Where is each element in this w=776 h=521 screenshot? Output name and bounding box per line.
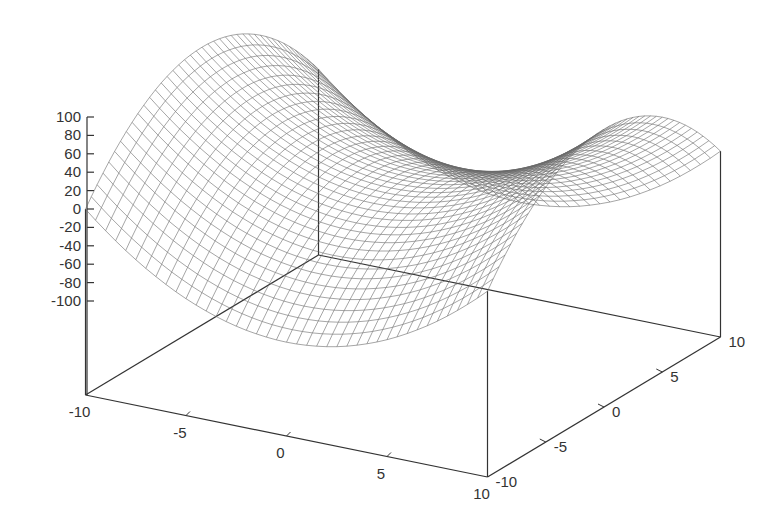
z-tick-label: 100 <box>56 108 81 125</box>
y-tick <box>598 404 604 407</box>
z-tick-label: 20 <box>64 182 81 199</box>
y-tick <box>540 439 546 442</box>
x-tick-label: -5 <box>173 424 186 441</box>
z-tick-label: 0 <box>73 200 81 217</box>
x-axis-ticks: -10-50510 <box>69 403 490 502</box>
z-tick-label: -40 <box>59 237 81 254</box>
plot-canvas: 100806040200-20-40-60-80-100 -10-50510 -… <box>0 0 776 521</box>
z-tick-label: -100 <box>51 292 81 309</box>
y-tick-label: -5 <box>554 438 567 455</box>
y-tick-label: 0 <box>612 403 620 420</box>
x-tick-label: 0 <box>276 444 284 461</box>
surface-mesh <box>86 34 721 347</box>
z-axis: 100806040200-20-40-60-80-100 <box>51 108 94 395</box>
x-tick-label: -10 <box>69 403 91 420</box>
x-tick-label: 5 <box>377 465 385 482</box>
y-axis-ticks: -10-50510 <box>496 333 746 490</box>
z-tick-label: -20 <box>59 218 81 235</box>
y-tick <box>656 369 662 372</box>
z-tick-label: 80 <box>64 126 81 143</box>
x-tick <box>287 432 291 436</box>
x-tick <box>186 412 190 416</box>
surface-wireframe <box>86 34 721 347</box>
x-tick <box>387 453 391 457</box>
y-tick-label: -10 <box>496 473 518 490</box>
y-tick-label: 10 <box>729 333 746 350</box>
z-tick-label: 40 <box>64 163 81 180</box>
y-tick-label: 5 <box>670 368 678 385</box>
x-tick-label: 10 <box>473 485 490 502</box>
z-tick-label: -80 <box>59 274 81 291</box>
z-tick-label: -60 <box>59 255 81 272</box>
surface-plot: 100806040200-20-40-60-80-100 -10-50510 -… <box>0 0 776 521</box>
z-tick-label: 60 <box>64 145 81 162</box>
